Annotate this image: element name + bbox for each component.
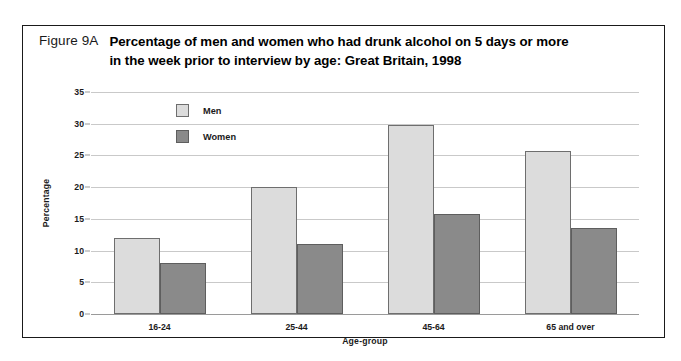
x-axis-title: Age-group <box>91 336 639 346</box>
bar-women-16-24 <box>160 263 206 314</box>
y-axis-title-label: Percentage <box>41 179 51 227</box>
bar-men-65-and-over <box>525 151 571 314</box>
figure-frame: Figure 9A Percentage of men and women wh… <box>22 25 665 338</box>
figure-title-line-2: in the week prior to interview by age: G… <box>109 52 568 71</box>
y-axis-tick-mark <box>85 282 90 283</box>
y-axis-tick-mark <box>85 187 90 188</box>
bar-women-65-and-over <box>571 228 617 314</box>
bar-group: 45-64 <box>365 92 502 314</box>
x-axis-tick-label: 45-64 <box>365 322 502 332</box>
y-axis-tick-mark <box>85 314 90 315</box>
x-axis-tick-label: 25-44 <box>228 322 365 332</box>
plot-area: MenWomen 0510152025303516-2425-4445-6465… <box>91 92 639 314</box>
bar-group: 16-24 <box>91 92 228 314</box>
y-axis-tick-label: 0 <box>79 309 84 319</box>
bar-group: 65 and over <box>502 92 639 314</box>
y-axis-tick-label: 25 <box>74 150 84 160</box>
y-axis-tick-label: 10 <box>74 246 84 256</box>
figure-title-line-1: Percentage of men and women who had drun… <box>109 33 568 52</box>
y-axis-tick-mark <box>85 123 90 124</box>
y-axis-tick-label: 30 <box>74 119 84 129</box>
y-axis-tick-label: 15 <box>74 214 84 224</box>
bar-women-25-44 <box>297 244 343 314</box>
y-axis-title: Percentage <box>39 92 53 314</box>
bar-women-45-64 <box>434 214 480 314</box>
figure-number: Figure 9A <box>39 33 98 48</box>
bar-men-16-24 <box>114 238 160 314</box>
bar-group: 25-44 <box>228 92 365 314</box>
y-axis-tick-label: 5 <box>79 277 84 287</box>
x-axis-line <box>91 314 639 315</box>
y-axis-tick-mark <box>85 218 90 219</box>
y-axis-tick-label: 35 <box>74 87 84 97</box>
page-title: Percentage of men and women who had drun… <box>109 33 568 71</box>
bar-men-25-44 <box>251 187 297 314</box>
x-axis-tick-label: 65 and over <box>502 322 639 332</box>
figure-title-block: Figure 9A Percentage of men and women wh… <box>39 33 654 71</box>
y-axis-tick-mark <box>85 155 90 156</box>
bar-chart: Percentage MenWomen 0510152025303516-242… <box>23 82 666 337</box>
y-axis-tick-label: 20 <box>74 182 84 192</box>
bar-men-45-64 <box>388 125 434 314</box>
y-axis-tick-mark <box>85 250 90 251</box>
x-axis-tick-label: 16-24 <box>91 322 228 332</box>
y-axis-tick-mark <box>85 92 90 93</box>
